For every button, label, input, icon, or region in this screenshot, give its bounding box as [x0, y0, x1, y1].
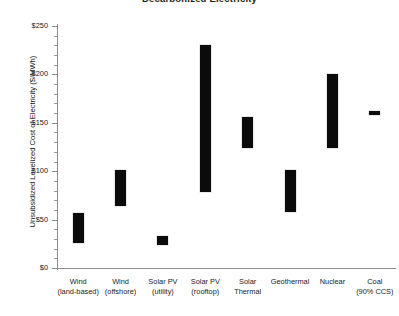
x-axis-tick-label-line2: (utility): [142, 287, 184, 297]
y-axis-major-tick: [52, 268, 57, 269]
x-axis-tick-label-line1: Nuclear: [320, 277, 345, 286]
x-axis-tick-label: Geothermal: [269, 277, 311, 287]
y-axis-tick-label: $250: [8, 21, 48, 30]
x-axis-tick-label-line2: (land-based): [57, 287, 99, 297]
x-axis-tick-label-line2: Thermal: [227, 287, 269, 297]
x-axis-tick-label-line1: Wind: [112, 277, 129, 286]
x-axis-tick-label: Wind(land-based): [57, 277, 99, 296]
range-bar: [285, 170, 296, 212]
x-axis-tick-label-line1: Solar PV: [148, 277, 177, 286]
x-axis-tick-label-line1: Wind: [70, 277, 87, 286]
y-axis-tick-label: $0: [8, 263, 48, 272]
y-axis-tick-label: $100: [8, 166, 48, 175]
range-bar: [73, 213, 84, 243]
x-axis-tick-label: Coal(90% CCS): [354, 277, 396, 296]
x-axis-tick-label: SolarThermal: [227, 277, 269, 296]
y-axis-tick-label: $200: [8, 69, 48, 78]
chart-title: Decarbonized Electricity: [0, 0, 399, 4]
x-axis-line: [57, 268, 396, 269]
x-axis-tick-label-line1: Solar: [239, 277, 256, 286]
x-axis-tick-label-line2: (rooftop): [184, 287, 226, 297]
x-axis-tick-label-line1: Coal: [367, 277, 382, 286]
x-axis-tick-label: Solar PV(utility): [142, 277, 184, 296]
range-bar: [327, 74, 338, 148]
range-bar: [157, 236, 168, 245]
x-axis-tick-label: Nuclear: [311, 277, 353, 287]
x-axis-tick-label-line1: Geothermal: [271, 277, 310, 286]
y-axis-tick-label: $50: [8, 215, 48, 224]
x-axis-tick-label-line2: (90% CCS): [354, 287, 396, 297]
y-axis-tick-label: $150: [8, 118, 48, 127]
x-axis-tick-label: Solar PV(rooftop): [184, 277, 226, 296]
x-axis-tick-label-line1: Solar PV: [191, 277, 220, 286]
range-bar: [200, 45, 211, 191]
chart-figure: Decarbonized Electricity Unsubsidized Le…: [0, 0, 399, 316]
range-bar: [369, 111, 380, 115]
plot-area: [57, 26, 396, 268]
range-bar: [115, 170, 126, 206]
x-axis-tick-label-line2: (offshore): [99, 287, 141, 297]
x-axis-tick-label: Wind(offshore): [99, 277, 141, 296]
range-bar: [242, 117, 253, 148]
